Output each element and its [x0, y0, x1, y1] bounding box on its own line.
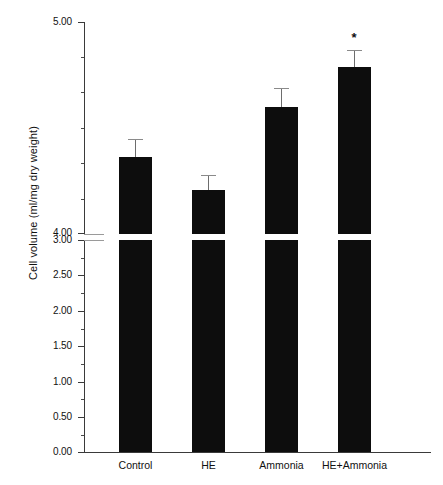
y-tick-label-3-00: 3.00 — [32, 234, 72, 245]
y-tick-label-2-00: 2.00 — [32, 305, 72, 316]
error-bar-stem — [281, 88, 282, 108]
y-tick-4-00 — [78, 233, 84, 234]
y-tick-minor — [81, 329, 85, 330]
x-axis-label-ammonia: Ammonia — [245, 459, 318, 471]
error-bar-cap — [201, 175, 216, 176]
y-tick-minor — [81, 92, 85, 93]
error-bar-stem — [354, 50, 355, 68]
error-bar-stem — [135, 139, 136, 158]
x-axis-label-control: Control — [99, 459, 172, 471]
y-tick-minor — [81, 293, 85, 294]
y-tick-minor — [81, 399, 85, 400]
y-tick-minor — [81, 128, 85, 129]
error-bar-stem — [208, 175, 209, 191]
bar-he-upper — [192, 190, 225, 234]
bar-he-ammonia-lower — [338, 240, 371, 452]
y-tick-1-00 — [78, 382, 84, 383]
bar-he-lower — [192, 240, 225, 452]
y-tick-0-50 — [78, 417, 84, 418]
bar-control-lower — [119, 240, 152, 452]
y-tick-label-1-00: 1.00 — [32, 376, 72, 387]
bar-he-ammonia-upper — [338, 67, 371, 234]
significance-asterisk: * — [344, 31, 364, 44]
axis-break-mark-upper — [84, 234, 104, 235]
x-axis-label-he: HE — [172, 459, 245, 471]
y-tick-minor — [81, 435, 85, 436]
bar-ammonia-upper — [265, 107, 298, 234]
y-tick-label-5-00: 5.00 — [32, 16, 72, 27]
y-tick-minor — [81, 163, 85, 164]
error-bar-cap — [128, 139, 143, 140]
error-bar-cap — [347, 50, 362, 51]
y-tick-label-0-50: 0.50 — [32, 411, 72, 422]
bar-ammonia-lower — [265, 240, 298, 452]
y-tick-label-2-50: 2.50 — [32, 269, 72, 280]
y-axis-line-lower — [84, 240, 85, 453]
y-tick-label-0-00: 0.00 — [32, 446, 72, 457]
y-tick-minor — [81, 258, 85, 259]
y-tick-3-00 — [78, 240, 84, 241]
y-axis-line-upper — [84, 22, 85, 234]
axis-break-mark-lower — [84, 240, 104, 241]
y-tick-1-50 — [78, 346, 84, 347]
y-tick-minor — [81, 364, 85, 365]
y-tick-0-00 — [78, 452, 84, 453]
x-axis-label-he-ammonia: HE+Ammonia — [318, 459, 391, 471]
bar-chart-figure: Cell volume (ml/mg dry weight) 5.00 4.00… — [0, 0, 443, 485]
bar-control-upper — [119, 157, 152, 234]
y-tick-2-50 — [78, 275, 84, 276]
y-tick-5-00 — [78, 22, 84, 23]
y-tick-minor — [81, 199, 85, 200]
x-axis-line — [84, 452, 431, 453]
error-bar-cap — [274, 88, 289, 89]
y-tick-2-00 — [78, 311, 84, 312]
y-tick-label-1-50: 1.50 — [32, 340, 72, 351]
y-tick-minor — [81, 57, 85, 58]
